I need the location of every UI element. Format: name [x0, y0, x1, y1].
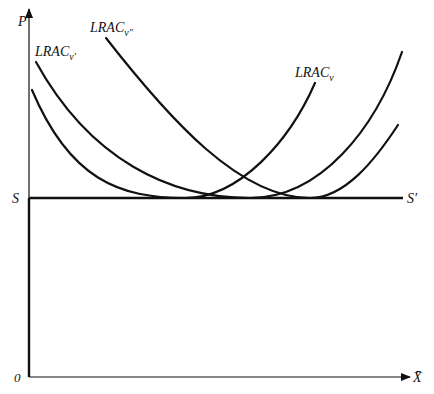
lrac-v-double-prime-curve — [106, 38, 398, 198]
supply-left-label: S — [12, 191, 19, 206]
supply-right-label: S′ — [407, 191, 418, 206]
x-axis-label: X̄ — [412, 370, 422, 385]
lrac-v-double-prime-label: LRACv″ — [89, 20, 134, 38]
lrac-v-prime-label: LRACv′ — [34, 44, 77, 62]
origin-label: 0 — [14, 370, 21, 385]
y-axis-label: P — [17, 14, 27, 29]
lrac-diagram: P 0 X̄ S S′ LRACv′ LRACv″ LRACv — [0, 0, 434, 394]
lrac-v-curve — [32, 83, 315, 198]
lrac-v-label: LRACv — [294, 65, 334, 83]
lrac-v-prime-curve — [36, 52, 402, 198]
